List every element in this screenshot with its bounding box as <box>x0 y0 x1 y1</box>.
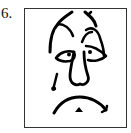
right-pupil-icon <box>88 50 92 54</box>
nose-icon <box>70 52 88 85</box>
left-pupil-icon <box>67 53 71 57</box>
right-eyebrow-icon <box>82 12 104 56</box>
teardrop-icon <box>51 74 57 91</box>
chin-mark-icon <box>75 107 83 112</box>
left-eyebrow-icon <box>50 12 73 52</box>
frowning-mouth-icon <box>54 97 107 113</box>
sad-face-drawing <box>0 0 131 133</box>
